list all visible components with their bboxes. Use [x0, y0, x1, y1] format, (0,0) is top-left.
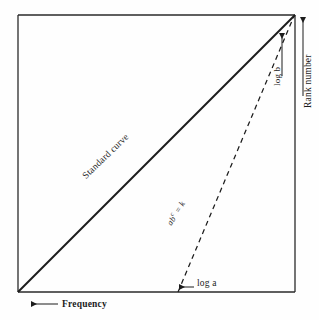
plot-canvas: [0, 0, 319, 320]
equation-dashed-line: [178, 16, 294, 292]
standard-curve-line: [18, 15, 295, 292]
zipf-rank-frequency-figure: Standard curve abc = k log b Rank number…: [0, 0, 319, 320]
x-axis-label: Frequency: [62, 299, 107, 309]
log-b-label: log b: [272, 67, 282, 86]
y-axis-label: Rank number: [303, 54, 313, 108]
log-a-label: log a: [197, 278, 217, 288]
